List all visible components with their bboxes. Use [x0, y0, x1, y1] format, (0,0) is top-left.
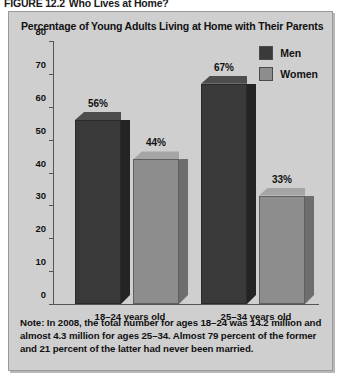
y-tick-label-0: 0: [41, 289, 46, 300]
figure-title: Who Lives at Home?: [69, 0, 169, 9]
bar-men-18-24: 56%: [75, 120, 121, 304]
y-tick-30: [49, 205, 54, 206]
bar-side-face: [247, 84, 256, 304]
y-axis-line: [53, 42, 54, 305]
bar-face: [201, 84, 247, 304]
chart-panel: Percentage of Young Adults Living at Hom…: [8, 11, 333, 371]
y-tick-label-40: 40: [35, 157, 46, 168]
plot-area: 0 10 20 30 40 50 60 70 80 56%: [53, 42, 319, 305]
y-tick-70: [49, 74, 54, 75]
y-tick-label-50: 50: [35, 124, 46, 135]
y-tick-40: [49, 173, 54, 174]
bar-side-face: [179, 159, 188, 304]
bar-side-face: [305, 196, 314, 305]
bar-value-men-18-24: 56%: [88, 98, 108, 109]
chart-note: Note: In 2008, the total number for ages…: [20, 317, 322, 356]
y-tick-10: [49, 271, 54, 272]
bar-value-women-25-34: 33%: [272, 174, 292, 185]
y-tick-label-30: 30: [35, 190, 46, 201]
y-tick-label-80: 80: [35, 26, 46, 37]
y-tick-20: [49, 238, 54, 239]
bar-side-face: [121, 120, 130, 304]
y-tick-50: [49, 140, 54, 141]
y-tick-80: [49, 41, 54, 42]
y-tick-0: [49, 304, 54, 305]
bar-women-25-34: 33%: [259, 196, 305, 305]
bar-face: [133, 159, 179, 304]
y-tick-label-10: 10: [35, 256, 46, 267]
y-tick-label-20: 20: [35, 223, 46, 234]
bar-men-25-34: 67%: [201, 84, 247, 304]
bar-face: [75, 120, 121, 304]
y-tick-label-70: 70: [35, 58, 46, 69]
x-axis-line: [53, 304, 319, 305]
chart-title: Percentage of Young Adults Living at Hom…: [21, 20, 323, 32]
bar-face: [259, 196, 305, 305]
figure-caption: FIGURE 12.2Who Lives at Home?: [4, 0, 169, 9]
y-tick-60: [49, 107, 54, 108]
bar-women-18-24: 44%: [133, 159, 179, 304]
bar-value-women-18-24: 44%: [146, 137, 166, 148]
figure-number: FIGURE 12.2: [4, 0, 65, 9]
y-tick-label-60: 60: [35, 91, 46, 102]
bar-value-men-25-34: 67%: [214, 62, 234, 73]
